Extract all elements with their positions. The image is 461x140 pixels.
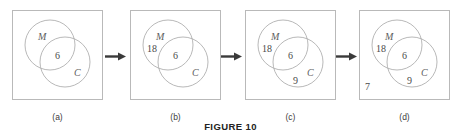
count-m-only-b: 18: [147, 44, 157, 54]
venn-panel-a: M C 6 (a): [12, 10, 103, 100]
circle-c-c: [273, 37, 323, 87]
count-intersection-b: 6: [173, 51, 178, 61]
venn-panel-c: M C 6 18 9 (c): [245, 10, 336, 100]
circle-c-a: [40, 37, 90, 87]
count-intersection-c: 6: [288, 51, 293, 61]
panel-caption-a: (a): [12, 113, 103, 122]
venn-panel-b: M C 6 18 (b): [130, 10, 221, 100]
circle-m-a: [25, 20, 75, 70]
count-m-only-d: 18: [376, 44, 386, 54]
set-label-m-c: M: [271, 32, 279, 42]
count-c-only-c: 9: [293, 76, 298, 86]
set-label-c-d: C: [421, 68, 428, 78]
panel-caption-c: (c): [245, 113, 336, 122]
arrow-a-to-b: [105, 52, 127, 61]
figure-caption: FIGURE 10: [0, 122, 461, 132]
circle-c-d: [387, 37, 437, 87]
count-intersection-d: 6: [402, 51, 407, 61]
count-c-only-d: 9: [407, 76, 412, 86]
set-label-c-b: C: [192, 68, 199, 78]
arrow-c-to-d: [336, 52, 358, 61]
venn-panel-d: M C 6 18 9 7 (d): [359, 10, 450, 100]
set-label-m-a: M: [38, 32, 46, 42]
set-label-c-c: C: [307, 68, 314, 78]
set-label-m-b: M: [156, 32, 164, 42]
venn-panel-row: M C 6 (a) M C 6 18: [0, 0, 461, 122]
set-label-c-a: C: [74, 68, 81, 78]
panel-caption-d: (d): [359, 113, 450, 122]
count-outside-d: 7: [365, 82, 370, 92]
arrow-b-to-c: [221, 52, 243, 61]
figure-10: M C 6 (a) M C 6 18: [0, 0, 461, 140]
set-label-m-d: M: [385, 32, 393, 42]
circle-c-b: [158, 37, 208, 87]
count-m-only-c: 18: [262, 44, 272, 54]
count-intersection-a: 6: [55, 51, 60, 61]
